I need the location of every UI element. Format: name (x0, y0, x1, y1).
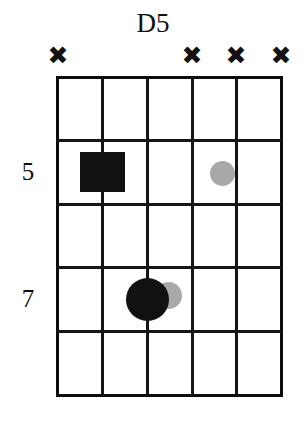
fret-number-7: 7 (8, 285, 48, 313)
fret-line-4 (56, 330, 282, 333)
fret-line-2 (56, 203, 282, 206)
string-line-5 (235, 76, 238, 397)
string-line-2 (101, 76, 104, 397)
string-marker-2 (87, 40, 117, 70)
fret-number-5: 5 (8, 158, 48, 186)
fret-line-3 (56, 266, 282, 269)
string-line-3 (146, 76, 149, 397)
finger-marker-optional-upper (210, 161, 235, 186)
string-line-6 (280, 76, 283, 397)
string-marker-5: ✖ (221, 40, 251, 70)
string-marker-row: ✖ ✖ ✖ ✖ (0, 40, 306, 70)
fret-line-1 (56, 139, 282, 142)
string-marker-6: ✖ (266, 40, 296, 70)
fret-line-bottom (56, 394, 282, 397)
fret-line-top (56, 76, 282, 79)
string-marker-4: ✖ (177, 40, 207, 70)
chord-name-title: D5 (0, 8, 306, 38)
finger-marker-root-square (80, 152, 125, 192)
string-line-4 (191, 76, 194, 397)
fretboard-grid (57, 76, 281, 397)
finger-marker-fifth (126, 278, 169, 321)
string-marker-1: ✖ (43, 40, 73, 70)
string-line-1 (56, 76, 59, 397)
chord-diagram: D5 ✖ ✖ ✖ ✖ 5 7 (0, 0, 306, 422)
string-marker-3 (132, 40, 162, 70)
